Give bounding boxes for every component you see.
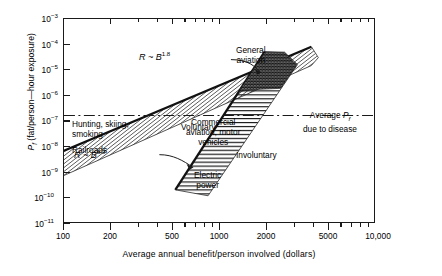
annotation-involuntary: Involuntary [236, 150, 277, 160]
xtick-label-100: 100 [43, 232, 83, 240]
law-voluntary-exponent: 1.8 [162, 50, 170, 57]
annotation-electric-power: Electric power [194, 170, 221, 190]
plot-area: R ~ B1.8 R ~ B6.3 Hunting, skiing, smoki… [63, 18, 375, 223]
xtick-100 [63, 223, 64, 230]
xtick-label-5000: 5000 [308, 232, 348, 240]
ytick-e6 [63, 95, 70, 96]
xtick-top-800 [204, 18, 205, 22]
xtick-top-4000 [313, 18, 314, 22]
xtick-top-400 [157, 18, 158, 22]
commav-line-1: Commercial [186, 117, 240, 127]
y-axis-units: (fat/person—hour exposure) [26, 33, 36, 143]
ytick-label-e11: 10−11 [14, 218, 54, 228]
xtick-8000 [360, 223, 361, 227]
xtick-1000 [219, 223, 220, 230]
xtick-top-200 [110, 18, 111, 24]
xtick-top-2000 [266, 18, 267, 24]
chart-figure: R ~ B1.8 R ~ B6.3 Hunting, skiing, smoki… [0, 0, 442, 276]
xtick-top-9000 [368, 18, 369, 22]
xtick-top-900 [212, 18, 213, 22]
xtick-2000 [266, 223, 267, 230]
xtick-800 [204, 223, 205, 227]
xtick-top-3000 [294, 18, 295, 22]
ytick-label-e7: 10−7 [18, 115, 58, 125]
disease-pf-subscript: f [348, 115, 350, 122]
electric-line-2: power [194, 180, 221, 190]
xtick-top-700 [195, 18, 196, 22]
genav-line-1: General [236, 45, 266, 55]
xtick-9000 [368, 223, 369, 227]
xtick-top-8000 [360, 18, 361, 22]
ytick-e5 [63, 69, 70, 70]
x-axis-title: Average annual benefit/person involved (… [63, 249, 375, 259]
xtick-4000 [313, 223, 314, 227]
xtick-3000 [294, 223, 295, 227]
y-axis-symbol: P [26, 145, 36, 151]
annotation-hunting-skiing-smoking: Hunting, skiing, smoking [72, 119, 129, 139]
xtick-top-6000 [340, 18, 341, 22]
hunting-line-1: Hunting, skiing, [72, 119, 129, 129]
xtick-700 [195, 223, 196, 227]
xtick-label-1000: 1000 [199, 232, 239, 240]
hunting-line-2: smoking [72, 129, 129, 139]
involuntary-label: Involuntary [236, 150, 277, 160]
ytick-e7 [63, 120, 70, 121]
y-axis-title: Pf (fat/person—hour exposure) [26, 2, 38, 182]
ytick-label-e10: 10−10 [14, 192, 54, 202]
genav-line-2: aviation [236, 55, 266, 65]
ytick-e9 [63, 172, 70, 173]
disease-line-1: Average Pf [303, 110, 357, 124]
xtick-600 [184, 223, 185, 227]
electric-line-1: Electric [194, 170, 221, 180]
ytick-e10 [63, 197, 70, 198]
xtick-300 [138, 223, 139, 227]
ytick-label-e8: 10−8 [18, 141, 58, 151]
xtick-500 [172, 223, 173, 230]
annotation-law-voluntary: R ~ B1.8 [139, 49, 170, 62]
xtick-top-300 [138, 18, 139, 22]
ytick-e3 [63, 18, 70, 19]
xtick-top-600 [184, 18, 185, 22]
annotation-average-pf-disease: Average Pf due to disease [303, 110, 357, 134]
railroads-label: Railroads [72, 145, 107, 155]
xtick-400 [157, 223, 158, 227]
annotation-commercial-aviation: Commercial aviation, motor vehicles [186, 117, 240, 148]
annotation-general-aviation: General aviation [236, 45, 266, 65]
commav-line-2: aviation, motor [186, 127, 240, 137]
ytick-label-e4: 10−4 [18, 39, 58, 49]
ytick-label-e3: 10−3 [18, 13, 58, 23]
ytick-e8 [63, 146, 70, 147]
ytick-e4 [63, 44, 70, 45]
xtick-label-200: 200 [90, 232, 130, 240]
xtick-6000 [340, 223, 341, 227]
xtick-top-500 [172, 18, 173, 24]
xtick-top-1000 [219, 18, 220, 24]
xtick-top-5000 [328, 18, 329, 24]
annotation-railroads: Railroads [72, 145, 107, 155]
ytick-label-e6: 10−6 [18, 90, 58, 100]
ytick-label-e9: 10−9 [18, 167, 58, 177]
y-axis-subscript: f [31, 143, 38, 145]
xtick-7000 [351, 223, 352, 227]
xtick-label-2000: 2000 [246, 232, 286, 240]
xtick-5000 [328, 223, 329, 230]
xtick-900 [212, 223, 213, 227]
xtick-label-500: 500 [152, 232, 192, 240]
xtick-top-7000 [351, 18, 352, 22]
disease-avg-word: Average [310, 110, 343, 120]
commav-line-3: vehicles [186, 137, 240, 147]
ytick-label-e5: 10−5 [18, 64, 58, 74]
xtick-200 [110, 223, 111, 230]
xtick-label-10000: 10,000 [355, 232, 401, 240]
disease-line-2: due to disease [303, 124, 357, 134]
law-voluntary-base: R ~ B [139, 52, 162, 62]
